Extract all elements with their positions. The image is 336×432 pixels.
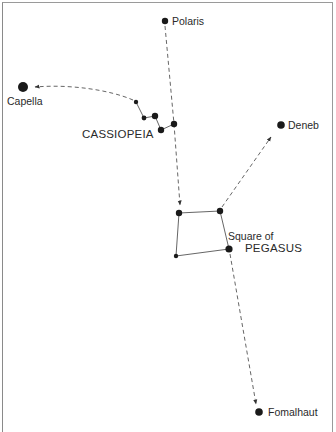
- star-fomalhaut: [255, 408, 263, 416]
- pointer-polaris-pegasus: [165, 26, 180, 205]
- star-cassiopeia: [171, 121, 177, 127]
- star-cassiopeia: [142, 116, 147, 121]
- label-fomalhaut: Fomalhaut: [268, 407, 318, 418]
- label-pegasus-line1: Square of: [228, 231, 274, 242]
- star-capella: [18, 82, 28, 92]
- star-pegasus: [217, 208, 223, 214]
- pointer-pegasus-fomalhaut: [230, 254, 256, 404]
- pegasus-square-lines: [176, 211, 229, 256]
- pointer-cassiopeia-capella: [35, 86, 133, 100]
- label-polaris: Polaris: [172, 16, 204, 27]
- star-cassiopeia: [152, 113, 158, 119]
- star-cassiopeia: [134, 100, 138, 104]
- label-capella: Capella: [7, 96, 43, 107]
- pointer-pegasus-deneb: [222, 137, 271, 207]
- label-deneb: Deneb: [288, 120, 319, 131]
- star-pegasus: [176, 210, 182, 216]
- star-deneb: [277, 121, 285, 129]
- star-pegasus: [174, 254, 178, 258]
- label-cassiopeia: CASSIOPEIA: [82, 129, 154, 141]
- label-pegasus-line2: PEGASUS: [245, 243, 302, 255]
- star-cassiopeia: [158, 127, 164, 133]
- star-pegasus: [225, 245, 232, 252]
- star-polaris: [162, 18, 168, 24]
